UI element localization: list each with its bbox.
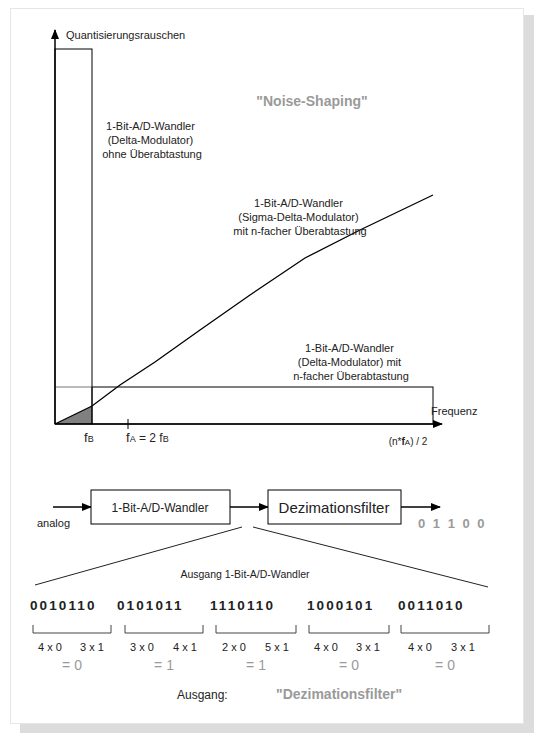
input-label: analog <box>37 517 70 529</box>
bracket-3 <box>216 625 296 633</box>
bit-group-2: 0101011 <box>117 598 184 613</box>
bracket-1 <box>33 625 111 633</box>
svg-text:4 x 0: 4 x 0 <box>38 641 62 653</box>
group-result-1: = 0 <box>62 657 82 673</box>
x-axis-label: Frequenz <box>431 405 477 417</box>
output-bits: 0 1 1 0 0 <box>418 516 487 531</box>
svg-text:3 x 0: 3 x 0 <box>130 641 154 653</box>
group-result-2: = 1 <box>154 657 174 673</box>
block-diagram: analog 1-Bit-A/D-Wandler Dezimationsfilt… <box>30 490 489 702</box>
bitstream: 0010110 0101011 1110110 1000101 0011010 <box>30 598 465 613</box>
bracket-4 <box>309 625 389 633</box>
bit-group-4: 1000101 <box>307 598 374 613</box>
svg-text:5 x 1: 5 x 1 <box>265 641 289 653</box>
adc-block-label: 1-Bit-A/D-Wandler <box>112 501 209 515</box>
footer-label: Ausgang: <box>177 688 228 702</box>
footer-value: "Dezimationsfilter" <box>276 686 402 702</box>
noise-shaping-diagram: Quantisierungsrauschen Frequenz "Noise-S… <box>0 0 550 742</box>
tick-fb-label: fB <box>84 430 94 445</box>
group-result-3: = 1 <box>246 657 266 673</box>
svg-text:4 x 1: 4 x 1 <box>173 641 197 653</box>
tick-fa-label: fA = 2 fB <box>126 430 169 445</box>
group-result-5: = 0 <box>435 657 455 673</box>
y-axis-label: Quantisierungsrauschen <box>66 29 185 41</box>
group-brackets <box>33 625 489 633</box>
svg-text:2 x 0: 2 x 0 <box>222 641 246 653</box>
delta-oversampling-rect <box>92 387 433 424</box>
bit-group-1: 0010110 <box>30 598 97 613</box>
annotation-delta-no-oversampling: 1-Bit-A/D-Wandler (Delta-Modulator) ohne… <box>102 120 202 160</box>
svg-text:3 x 1: 3 x 1 <box>451 641 475 653</box>
svg-text:4 x 0: 4 x 0 <box>314 641 338 653</box>
bit-group-3: 1110110 <box>210 598 275 613</box>
annotation-delta-oversampling: 1-Bit-A/D-Wandler (Delta-Modulator) mit … <box>293 342 409 382</box>
svg-text:3 x 1: 3 x 1 <box>356 641 380 653</box>
group-result-4: = 0 <box>339 657 359 673</box>
group-counts: 4 x 0 3 x 1 3 x 0 4 x 1 2 x 0 5 x 1 4 x … <box>38 641 475 653</box>
tick-end-label: (n*fA) / 2 <box>389 436 428 447</box>
bitstream-caption: Ausgang 1-Bit-A/D-Wandler <box>180 568 310 580</box>
svg-text:4 x 0: 4 x 0 <box>408 641 432 653</box>
decimation-block-label: Dezimationsfilter <box>279 499 390 516</box>
bracket-5 <box>401 625 489 633</box>
svg-text:3 x 1: 3 x 1 <box>80 641 104 653</box>
bit-group-5: 0011010 <box>398 598 465 613</box>
group-results: = 0 = 1 = 1 = 0 = 0 <box>62 657 455 673</box>
delta-no-oversampling-rect <box>55 49 92 424</box>
chart-title: "Noise-Shaping" <box>256 93 367 109</box>
noise-chart: Quantisierungsrauschen Frequenz "Noise-S… <box>55 29 477 447</box>
annotation-sigma-delta: 1-Bit-A/D-Wandler (Sigma-Delta-Modulator… <box>233 197 366 237</box>
bracket-2 <box>125 625 203 633</box>
